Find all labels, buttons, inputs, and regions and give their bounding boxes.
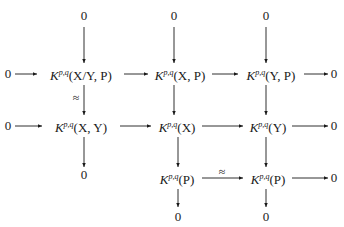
node-K-X: Kp,q(X) [159,118,196,135]
node-bottom-zero-2: 0 [263,210,270,224]
node-r3-left-zero: 0 [5,119,12,133]
node-K-P-left: Kp,q(P) [160,170,195,187]
node-top-zero-1: 0 [81,9,88,23]
node-K-Y: Kp,q(Y) [250,118,287,135]
iso-label-horizontal: ≈ [219,165,226,180]
node-r3-right-zero: 0 [331,119,338,133]
node-r4-right-zero: 0 [331,171,338,185]
node-r4-zero: 0 [81,168,88,182]
node-r2-left-zero: 0 [5,67,12,81]
node-bottom-zero-1: 0 [175,210,182,224]
arrows-layer [0,0,344,227]
node-top-zero-2: 0 [171,9,178,23]
node-K-P-right: Kp,q(P) [251,170,286,187]
node-K-X-Y: Kp,q(X, Y) [55,118,107,135]
node-K-X-P: Kp,q(X, P) [155,66,205,83]
node-top-zero-3: 0 [263,9,270,23]
iso-label-vertical: ≈ [73,91,80,106]
node-r2-right-zero: 0 [331,67,338,81]
node-K-XY-P-quotient: Kp,q(X/Y, P) [50,66,112,83]
node-K-Y-P: Kp,q(Y, P) [247,66,296,83]
